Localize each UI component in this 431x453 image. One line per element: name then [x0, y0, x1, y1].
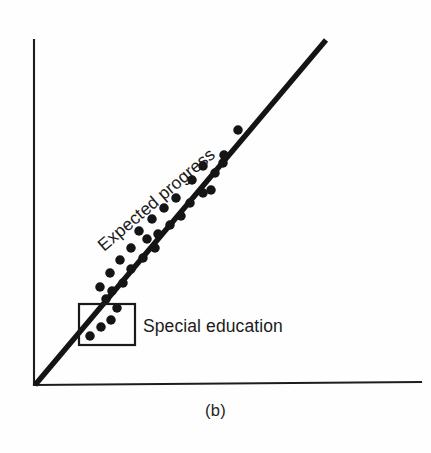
data-point — [142, 234, 152, 244]
data-point — [95, 282, 105, 292]
data-point — [176, 211, 186, 221]
data-point — [105, 268, 115, 278]
x-axis-line — [34, 382, 421, 385]
special-education-label: Special education — [143, 316, 283, 336]
data-point — [126, 243, 136, 253]
data-point — [85, 331, 95, 341]
data-point — [150, 243, 160, 253]
data-point — [126, 264, 136, 274]
data-point — [153, 229, 163, 239]
data-point — [118, 278, 128, 288]
data-point — [115, 255, 125, 265]
data-point — [219, 150, 229, 160]
figure-container: Expected progress Special education (b) — [0, 0, 431, 453]
data-point — [138, 253, 148, 263]
data-point — [107, 286, 117, 296]
data-point — [210, 168, 220, 178]
scatter-plot-svg: Expected progress Special education — [0, 0, 431, 453]
data-point — [165, 220, 175, 230]
data-point — [106, 315, 116, 325]
data-point — [233, 125, 243, 135]
data-point — [218, 158, 228, 168]
data-point — [96, 322, 106, 332]
data-point — [206, 185, 216, 195]
data-point — [101, 294, 111, 304]
data-point — [185, 198, 195, 208]
figure-caption: (b) — [0, 401, 431, 420]
